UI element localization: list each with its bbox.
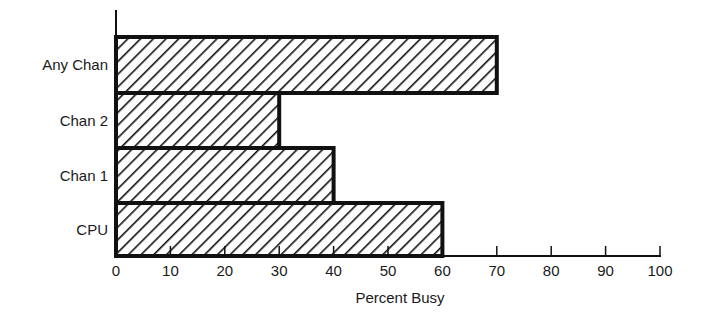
x-tick-label: 90 xyxy=(597,262,614,279)
x-axis-title: Percent Busy xyxy=(355,289,445,306)
percent-busy-bar-chart: Any ChanChan 2Chan 1CPU 0102030405060708… xyxy=(0,0,707,322)
bars-group xyxy=(116,37,497,256)
bar-chan-2 xyxy=(116,93,279,148)
x-tick-label: 10 xyxy=(162,262,179,279)
category-label: Chan 1 xyxy=(60,167,108,184)
bar-any-chan xyxy=(116,37,497,93)
x-tick-label: 20 xyxy=(216,262,233,279)
category-label: Chan 2 xyxy=(60,112,108,129)
x-tick-label: 30 xyxy=(271,262,288,279)
category-labels: Any ChanChan 2Chan 1CPU xyxy=(42,56,108,238)
x-tick-label: 100 xyxy=(647,262,672,279)
category-label: CPU xyxy=(76,221,108,238)
x-tick-label: 0 xyxy=(112,262,120,279)
category-label: Any Chan xyxy=(42,56,108,73)
bar-chan-1 xyxy=(116,148,334,203)
x-tick-label: 80 xyxy=(543,262,560,279)
x-tick-label: 50 xyxy=(380,262,397,279)
x-tick-label: 70 xyxy=(488,262,505,279)
x-tick-label: 60 xyxy=(434,262,451,279)
x-tick-label: 40 xyxy=(325,262,342,279)
